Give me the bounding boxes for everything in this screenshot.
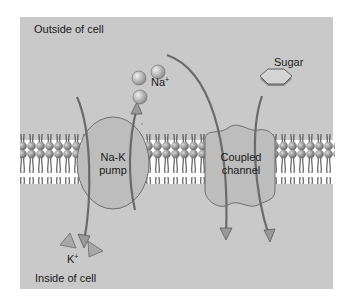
na-k-pump-line1: Na-K — [88, 151, 138, 164]
potassium-charge: + — [74, 253, 78, 260]
na-k-pump-label: Na-K pump — [88, 151, 138, 177]
coupled-channel-label: Coupled channel — [214, 151, 268, 177]
membrane-transport-diagram — [0, 0, 353, 304]
coupled-channel-line1: Coupled — [214, 151, 268, 164]
diagram-stage: Outside of cell Inside of cell Na+ K+ Su… — [0, 0, 353, 304]
sodium-label: Na+ — [151, 77, 169, 88]
potassium-label: K+ — [67, 254, 78, 265]
sodium-symbol: Na — [151, 76, 165, 88]
outside-of-cell-label: Outside of cell — [34, 24, 104, 35]
na-k-pump-line2: pump — [88, 164, 138, 177]
inside-of-cell-label: Inside of cell — [35, 273, 96, 284]
coupled-channel-line2: channel — [214, 164, 268, 177]
lipid-bilayer — [20, 134, 335, 184]
sodium-charge: + — [165, 76, 169, 83]
sugar-label: Sugar — [274, 57, 303, 68]
